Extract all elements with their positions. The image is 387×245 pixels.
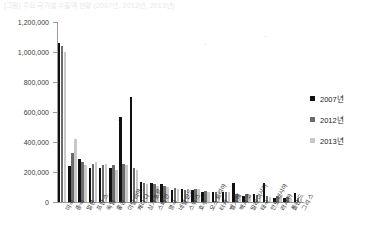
bar-group: [88, 22, 98, 202]
bar-group: [262, 22, 272, 202]
x-axis-label-cell: 중국: [67, 203, 77, 245]
x-axis-label-cell: 프랑스: [88, 203, 98, 245]
bar: [84, 165, 87, 203]
y-axis-tick-label: 400,000: [24, 139, 49, 146]
x-axis-label-cell: 홍콩: [108, 203, 118, 245]
y-axis-tick-label: 1,200,000: [18, 19, 49, 26]
legend-swatch-icon: [310, 138, 315, 143]
bar-group: [211, 22, 221, 202]
x-axis-label-cell: 네덜란드: [170, 203, 180, 245]
x-axis-label-cell: 이탈리아: [119, 203, 129, 245]
bar-group: [283, 22, 293, 202]
figure-caption: [그림] 주요 국가별 수출액 현황 (2007년, 2012년, 2013년): [4, 0, 304, 11]
bar-group: [180, 22, 190, 202]
legend-label: 2013년: [320, 135, 344, 146]
chart-legend: 2007년 2012년 2013년: [310, 88, 382, 151]
legend-swatch-icon: [310, 96, 315, 101]
y-axis-tick-label: 600,000: [24, 109, 49, 116]
x-axis-label-cell: 호주: [190, 203, 200, 245]
y-axis-tick-label: 800,000: [24, 79, 49, 86]
bar-group: [149, 22, 159, 202]
x-axis-label-cell: 싱가포르: [139, 203, 149, 245]
bar-group: [252, 22, 262, 202]
bar-group: [98, 22, 108, 202]
bar-group: [78, 22, 88, 202]
bar-group: [170, 22, 180, 202]
legend-item-2007: 2007년: [310, 88, 382, 109]
bar-groups: [57, 22, 303, 202]
noise-speck: [205, 44, 206, 45]
x-axis-labels: 미국중국일본프랑스독일홍콩이탈리아캐나다싱가포르스페인영국네덜란드스위스호주오스…: [57, 203, 303, 245]
bar: [125, 165, 128, 203]
x-axis-label-cell: 폴란드: [283, 203, 293, 245]
x-axis-label-cell: 스페인: [149, 203, 159, 245]
legend-item-2012: 2012년: [310, 109, 382, 130]
bar-group: [108, 22, 118, 202]
x-axis-label-cell: 태국: [252, 203, 262, 245]
y-axis-tick-label: 200,000: [24, 169, 49, 176]
legend-item-2013: 2013년: [310, 130, 382, 151]
legend-swatch-icon: [310, 117, 315, 122]
y-axis-tick-label: 1,000,000: [18, 49, 49, 56]
bar-group: [119, 22, 129, 202]
bar-group: [160, 22, 170, 202]
bar-group: [139, 22, 149, 202]
legend-label: 2007년: [320, 93, 344, 104]
bar: [64, 52, 67, 202]
plot-area: [57, 22, 303, 202]
x-axis-label-cell: 미국: [57, 203, 67, 245]
y-axis-tick-label: 0: [45, 199, 49, 206]
bar-group: [221, 22, 231, 202]
bar: [74, 139, 77, 202]
bar-group: [272, 22, 282, 202]
x-axis-label-cell: 말레이시아: [242, 203, 252, 245]
bar-group: [57, 22, 67, 202]
x-axis-label-cell: 스위스: [180, 203, 190, 245]
noise-speck: [118, 120, 119, 121]
x-axis-label-cell: 멕시코: [231, 203, 241, 245]
bar-group: [190, 22, 200, 202]
bar-chart-figure: [그림] 주요 국가별 수출액 현황 (2007년, 2012년, 2013년)…: [0, 0, 387, 245]
x-axis-label-cell: 독일: [98, 203, 108, 245]
bar-group: [293, 22, 303, 202]
bar: [115, 170, 118, 202]
noise-speck: [265, 36, 266, 37]
x-axis-label-cell: 그리스: [293, 203, 303, 245]
x-axis-label-cell: 영국: [160, 203, 170, 245]
x-axis-label-cell: 캐나다: [129, 203, 139, 245]
bar-group: [242, 22, 252, 202]
bar: [95, 162, 98, 202]
bar-group: [231, 22, 241, 202]
x-axis-label-cell: 터키: [211, 203, 221, 245]
legend-label: 2012년: [320, 114, 344, 125]
x-axis-label-cell: 벨기에: [221, 203, 231, 245]
x-axis-label-cell: 러시아: [272, 203, 282, 245]
bar-group: [67, 22, 77, 202]
bar-group: [201, 22, 211, 202]
bar-group: [129, 22, 139, 202]
x-axis-label-cell: 인도네시아: [262, 203, 272, 245]
x-axis-label-cell: 일본: [78, 203, 88, 245]
x-axis-label-cell: 오스트리아: [201, 203, 211, 245]
